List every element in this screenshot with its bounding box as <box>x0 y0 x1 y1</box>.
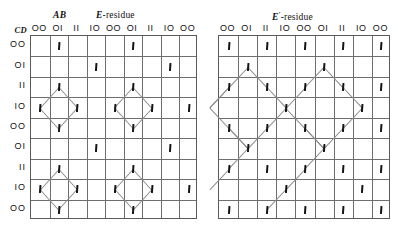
column-header-oo-9: OO <box>369 23 392 33</box>
left-title-suffix: -residue <box>103 10 135 20</box>
grid-line-horizontal <box>31 97 196 98</box>
residue-mark <box>304 206 306 214</box>
residue-mark <box>342 42 344 50</box>
grid-line-vertical <box>257 36 258 218</box>
grid-line-horizontal <box>219 97 389 98</box>
residue-mark <box>266 83 268 91</box>
residue-mark <box>169 144 171 152</box>
residue-mark <box>380 165 382 173</box>
residue-mark <box>132 124 134 132</box>
grid-line-vertical <box>68 36 69 218</box>
grid-line-vertical <box>372 36 373 218</box>
grid-line-vertical <box>315 36 316 218</box>
grid-line-vertical <box>50 36 51 218</box>
grid-line-horizontal <box>219 138 389 139</box>
grid-line-horizontal <box>219 179 389 180</box>
column-header-oo-9: OO <box>176 23 199 33</box>
grid-line-vertical <box>295 36 296 218</box>
residue-mark <box>227 206 229 214</box>
right-panel-title: E′-residue <box>272 10 313 22</box>
residue-mark <box>169 63 171 71</box>
residue-mark <box>380 42 382 50</box>
right-grid <box>218 35 390 219</box>
row-header-ii-7: II <box>2 162 26 172</box>
residue-mark <box>266 124 268 132</box>
residue-mark <box>380 206 382 214</box>
row-header-io-8: IO <box>2 182 26 192</box>
residue-mark <box>342 165 344 173</box>
residue-mark <box>58 124 60 132</box>
residue-mark <box>227 83 229 91</box>
row-header-ii-3: II <box>2 80 26 90</box>
residue-mark <box>58 206 60 214</box>
row-header-io-4: IO <box>2 101 26 111</box>
grid-line-vertical <box>87 36 88 218</box>
grid-line-horizontal <box>31 138 196 139</box>
residue-mark <box>285 185 287 193</box>
grid-line-horizontal <box>31 77 196 78</box>
residue-mark <box>285 104 287 112</box>
residue-mark <box>95 63 97 71</box>
row-header-oo-9: OO <box>2 203 26 213</box>
grid-line-vertical <box>334 36 335 218</box>
residue-mark <box>76 104 78 112</box>
residue-mark <box>58 165 60 173</box>
grid-line-vertical <box>353 36 354 218</box>
residue-mark <box>227 165 229 173</box>
grid-line-horizontal <box>219 56 389 57</box>
grid-line-horizontal <box>31 56 196 57</box>
residue-mark <box>227 124 229 132</box>
residue-mark <box>113 185 115 193</box>
residue-mark <box>151 104 153 112</box>
row-header-oi-6: OI <box>2 141 26 151</box>
grid-line-horizontal <box>31 118 196 119</box>
residue-mark <box>247 144 249 152</box>
left-grid <box>30 35 197 219</box>
residue-mark <box>342 206 344 214</box>
residue-mark <box>361 185 363 193</box>
grid-line-horizontal <box>31 200 196 201</box>
residue-mark <box>380 124 382 132</box>
residue-mark <box>188 185 190 193</box>
residue-mark <box>304 165 306 173</box>
residue-mark <box>380 83 382 91</box>
residue-mark <box>266 206 268 214</box>
residue-mark <box>266 165 268 173</box>
residue-mark <box>58 83 60 91</box>
left-panel-title: E-residue <box>96 10 135 20</box>
left-cd-label: CD <box>3 25 27 35</box>
grid-line-vertical <box>276 36 277 218</box>
residue-mark <box>151 185 153 193</box>
grid-line-vertical <box>161 36 162 218</box>
residue-mark <box>132 206 134 214</box>
residue-mark <box>227 42 229 50</box>
figure-canvas: AB E-residue CD OOOIIIIOOOOIIIIOOO OOOII… <box>0 0 401 225</box>
grid-line-horizontal <box>219 118 389 119</box>
left-ab-label: AB <box>53 10 66 20</box>
grid-line-horizontal <box>219 77 389 78</box>
grid-line-vertical <box>142 36 143 218</box>
row-header-oi-2: OI <box>2 60 26 70</box>
grid-line-vertical <box>238 36 239 218</box>
grid-line-horizontal <box>219 200 389 201</box>
grid-line-vertical <box>124 36 125 218</box>
grid-line-vertical <box>105 36 106 218</box>
grid-line-horizontal <box>219 159 389 160</box>
residue-mark <box>113 104 115 112</box>
grid-line-vertical <box>179 36 180 218</box>
residue-mark <box>188 104 190 112</box>
residue-mark <box>304 42 306 50</box>
grid-line-horizontal <box>31 159 196 160</box>
residue-mark <box>304 83 306 91</box>
residue-mark <box>361 104 363 112</box>
residue-mark <box>266 42 268 50</box>
grid-line-horizontal <box>31 179 196 180</box>
residue-mark <box>58 42 60 50</box>
row-header-oo-5: OO <box>2 121 26 131</box>
residue-mark <box>132 42 134 50</box>
residue-mark <box>247 63 249 71</box>
right-title-suffix: -residue <box>281 12 313 22</box>
row-header-oo-1: OO <box>2 39 26 49</box>
residue-mark <box>95 144 97 152</box>
